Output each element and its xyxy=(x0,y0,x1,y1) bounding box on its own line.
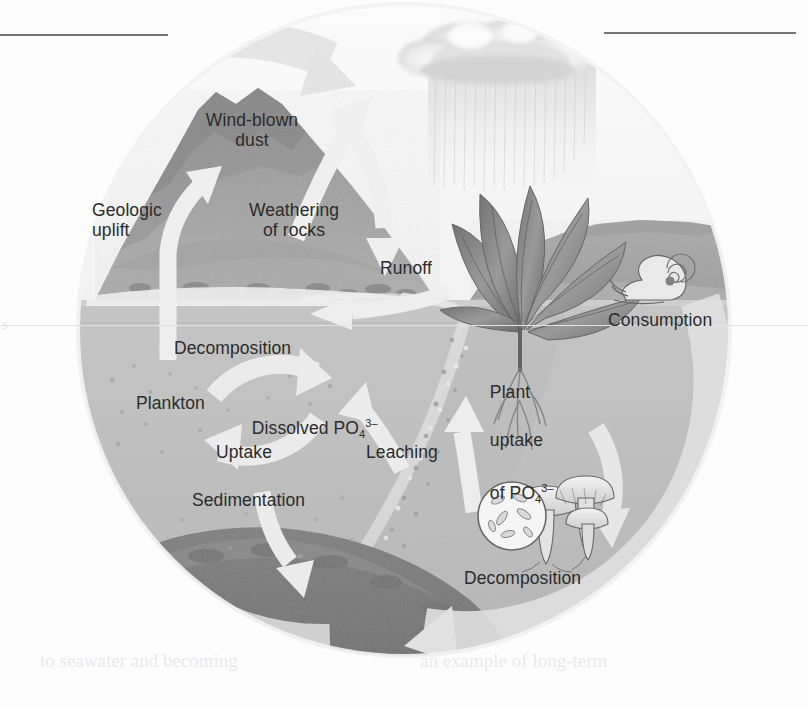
page-ghost-text-2: an example of long-term xyxy=(420,650,607,672)
label-leaching: Leaching xyxy=(366,442,438,462)
circle-wash xyxy=(78,4,730,656)
phosphorus-cycle-illustration xyxy=(0,0,808,709)
scene xyxy=(0,0,808,709)
label-consumption: Consumption xyxy=(608,310,712,330)
plant-uptake-line-2: uptake xyxy=(490,430,543,450)
dissolved-phosphate-superscript: 3– xyxy=(365,417,377,429)
page-rule-left xyxy=(0,34,168,36)
label-wind-blown-dust: Wind-blown dust xyxy=(182,110,322,150)
label-geologic-uplift: Geologic uplift xyxy=(92,200,162,240)
label-decomposition-water: Decomposition xyxy=(174,338,291,358)
dissolved-phosphate-text: Dissolved PO xyxy=(252,418,359,438)
label-plant-uptake: Plant uptake of PO43– xyxy=(470,356,554,535)
page-ghost-text-1: to seawater and becoming xyxy=(40,650,238,672)
label-plankton: Plankton xyxy=(136,393,205,413)
plant-uptake-line-1: Plant xyxy=(490,382,530,402)
dissolved-phosphate-subscript: 4 xyxy=(359,428,365,440)
plant-uptake-line-3: of PO xyxy=(490,483,535,503)
label-decomposition-land: Decomposition xyxy=(464,568,581,588)
plant-uptake-subscript: 4 xyxy=(535,493,541,505)
label-weathering-of-rocks: Weathering of rocks xyxy=(228,200,360,240)
label-sedimentation: Sedimentation xyxy=(192,490,305,510)
figure-canvas: s to seawater and becoming an example of… xyxy=(0,0,808,709)
page-edge-char: s xyxy=(2,316,8,333)
label-runoff: Runoff xyxy=(380,258,432,278)
label-uptake: Uptake xyxy=(216,442,272,462)
page-rule-right xyxy=(604,32,796,34)
plant-uptake-superscript: 3– xyxy=(541,482,553,494)
